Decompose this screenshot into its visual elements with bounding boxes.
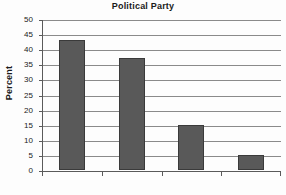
x-tick-mark <box>162 172 163 176</box>
x-tick-mark <box>102 172 103 176</box>
y-tick-label: 25 <box>0 92 33 100</box>
gridline <box>42 35 281 36</box>
bar <box>59 40 85 170</box>
y-tick-label: 30 <box>0 76 33 84</box>
y-tick-label: 10 <box>0 137 33 145</box>
y-tick-mark <box>39 35 42 36</box>
y-tick-mark <box>39 126 42 127</box>
bar-chart: Political Party Percent 5045403530252015… <box>0 0 286 195</box>
y-tick-mark <box>39 80 42 81</box>
y-tick-label: 15 <box>0 122 33 130</box>
y-tick-mark <box>39 156 42 157</box>
x-tick-label: Socialist <box>216 194 286 195</box>
y-tick-label: 50 <box>0 16 33 24</box>
y-tick-label: 20 <box>0 107 33 115</box>
y-tick-mark <box>39 20 42 21</box>
chart-title: Political Party <box>0 1 286 11</box>
y-tick-label: 40 <box>0 46 33 54</box>
y-tick-mark <box>39 50 42 51</box>
y-axis-line <box>42 20 43 172</box>
y-tick-label: 35 <box>0 61 33 69</box>
y-tick-mark <box>39 65 42 66</box>
bar <box>178 125 204 170</box>
bar <box>238 155 264 170</box>
x-tick-mark <box>221 172 222 176</box>
y-tick-label: 0 <box>0 167 33 175</box>
bar <box>119 58 145 170</box>
x-tick-mark <box>280 172 281 176</box>
y-tick-label: 45 <box>0 31 33 39</box>
x-tick-mark <box>42 172 43 176</box>
plot-area: 50454035302520151050 DemocratRepublicanL… <box>42 20 281 171</box>
y-tick-label: 5 <box>0 152 33 160</box>
y-tick-mark <box>39 111 42 112</box>
y-tick-mark <box>39 96 42 97</box>
gridline <box>42 20 281 21</box>
y-tick-mark <box>39 141 42 142</box>
